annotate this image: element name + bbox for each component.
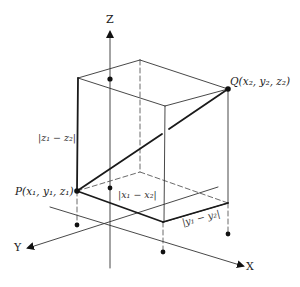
y-axis-label: Y	[14, 242, 21, 253]
point-Q-label: Q(x₂, y₂, z₂)	[230, 76, 290, 87]
highlight-edges	[77, 78, 228, 222]
floor-dot-q	[226, 232, 231, 237]
diagram-canvas	[0, 0, 300, 287]
floor-dot-p	[75, 223, 80, 228]
pq-diagonal-upper	[169, 89, 228, 129]
axes	[28, 32, 243, 268]
point-Q-dot	[225, 86, 231, 92]
dz-edge	[77, 78, 78, 191]
point-P-dot	[74, 188, 80, 194]
point-P-label: P(x₁, y₁, z₁)	[15, 186, 74, 197]
z-axis-bottom-dot	[108, 186, 113, 191]
floor-dot-front	[161, 250, 166, 255]
x-axis-label: X	[246, 261, 254, 272]
dz-label: |z₁ − z₂|	[38, 133, 76, 143]
z-axis-top-dot	[107, 76, 112, 81]
3d-distance-diagram: Z Y X Q(x₂, y₂, z₂) P(x₁, y₁, z₁) |z₁ − …	[0, 0, 300, 287]
hidden-edges	[77, 60, 228, 252]
dx-label: |x₁ − x₂|	[118, 190, 157, 200]
pq-diagonal-lower	[77, 134, 162, 191]
z-axis-label: Z	[106, 14, 114, 25]
